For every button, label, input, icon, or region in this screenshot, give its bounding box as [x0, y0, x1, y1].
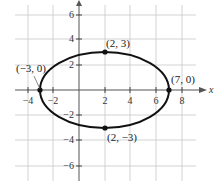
y-tick-label: 6	[69, 9, 74, 20]
point-bottom	[102, 125, 107, 130]
leader-line	[34, 76, 40, 89]
point-label-bottom: (2, −3)	[107, 131, 137, 144]
x-tick-label: 8	[180, 95, 185, 106]
y-tick-label: −2	[63, 109, 74, 120]
point-label-left: (−3, 0)	[16, 62, 46, 75]
point-right	[166, 87, 171, 92]
ellipse-graph: x −4 −2 2 4 6 8 6 4 2 −2 −4 −6 (2, 3	[0, 0, 217, 181]
x-tick-label: 4	[128, 95, 133, 106]
y-tick-label: −6	[63, 160, 74, 171]
x-tick-label: −2	[48, 95, 59, 106]
x-tick-label: 6	[154, 95, 159, 106]
x-axis-arrow-icon	[199, 87, 207, 93]
x-tick-label: −4	[23, 95, 34, 106]
x-tick-label: 2	[103, 95, 108, 106]
y-tick-label: −4	[63, 134, 74, 145]
y-tick-label: 4	[69, 33, 74, 44]
y-axis-arrow-icon	[76, 0, 82, 6]
point-top	[102, 49, 107, 54]
point-label-top: (2, 3)	[106, 37, 130, 50]
x-axis-label: x	[208, 84, 214, 95]
y-tick-label: 2	[69, 59, 74, 70]
point-label-right: (7, 0)	[171, 73, 195, 86]
